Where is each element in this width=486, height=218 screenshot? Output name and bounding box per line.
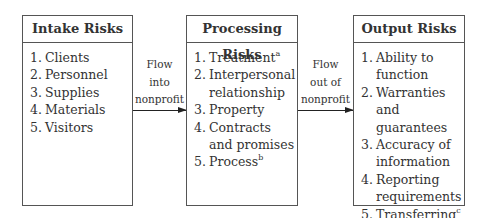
list-item: 5.Transferringc: [361, 206, 464, 218]
list-item: 1.Treatmenta: [194, 49, 297, 66]
footnote-marker: a: [276, 49, 281, 58]
output-risks-box: Output Risks 1.Ability to function 2.War…: [353, 15, 465, 206]
list-item: 4.Materials: [30, 101, 132, 118]
list-item: 5.Processb: [194, 153, 297, 170]
risk-list: 1.Ability to function 2.Warranties and g…: [354, 43, 464, 218]
list-item: 4.Reporting requirements: [361, 171, 464, 206]
list-item: 2.Personnel: [30, 66, 132, 83]
list-item: 2.Warranties and guarantees: [361, 84, 464, 136]
box-title: Output Risks: [354, 16, 464, 43]
list-item: 2.Interpersonal relationship: [194, 66, 297, 101]
list-item: 5.Visitors: [30, 119, 132, 136]
processing-risks-box: Processing Risks 1.Treatmenta 2.Interper…: [186, 15, 298, 206]
list-item: 3.Accuracy of information: [361, 136, 464, 171]
list-item: 1.Ability to function: [361, 49, 464, 84]
risk-list: 1.Treatmenta 2.Interpersonal relationshi…: [187, 43, 297, 171]
box-title: Processing Risks: [187, 16, 297, 43]
intake-risks-box: Intake Risks 1.Clients 2.Personnel 3.Sup…: [22, 15, 133, 206]
list-item: 3.Supplies: [30, 84, 132, 101]
arrow-right-icon: [298, 110, 353, 111]
box-title: Intake Risks: [23, 16, 132, 43]
list-item: 4.Contracts and promises: [194, 119, 297, 154]
footnote-marker: b: [258, 153, 263, 162]
flow-out-label: Flow out of nonprofit: [298, 56, 353, 109]
footnote-marker: c: [456, 206, 460, 215]
list-item: 3.Property: [194, 101, 297, 118]
flow-into-label: Flow into nonprofit: [133, 56, 186, 109]
list-item: 1.Clients: [30, 49, 132, 66]
risk-list: 1.Clients 2.Personnel 3.Supplies 4.Mater…: [23, 43, 132, 136]
arrow-right-icon: [133, 110, 186, 111]
